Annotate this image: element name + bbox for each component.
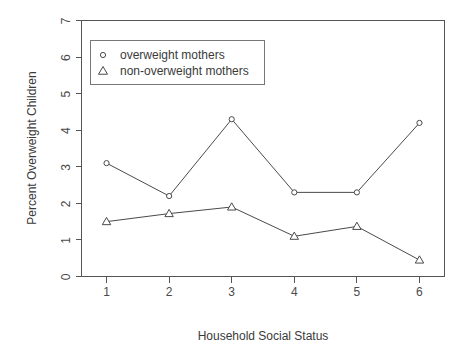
y-tick-label-6: 6 xyxy=(59,54,73,61)
x-axis: 123456 xyxy=(82,277,445,300)
data-point-1-3 xyxy=(229,117,234,122)
y-axis-title: Percent Overweight Children xyxy=(25,71,39,224)
series-line-1 xyxy=(107,119,420,196)
x-tick-label-5: 5 xyxy=(354,285,361,299)
y-axis-ticks xyxy=(76,21,82,277)
legend-label-2: non-overweight mothers xyxy=(120,64,249,78)
y-tick-label-5: 5 xyxy=(59,90,73,97)
data-point-1-1 xyxy=(104,161,109,166)
data-point-2-3 xyxy=(228,203,236,210)
x-axis-tick-labels: 123456 xyxy=(103,285,423,299)
x-tick-label-1: 1 xyxy=(103,285,110,299)
x-tick-label-6: 6 xyxy=(416,285,423,299)
y-tick-label-3: 3 xyxy=(59,164,73,171)
data-point-2-6 xyxy=(415,256,423,263)
circle-marker-icon xyxy=(100,52,105,57)
y-axis: 01234567 xyxy=(59,17,81,280)
y-tick-label-7: 7 xyxy=(59,17,73,24)
y-tick-label-2: 2 xyxy=(59,200,73,207)
x-tick-label-3: 3 xyxy=(228,285,235,299)
chart-container: 01234567 123456 Percent Overweight Child… xyxy=(0,0,469,361)
x-axis-title: Household Social Status xyxy=(198,329,329,343)
x-tick-label-2: 2 xyxy=(166,285,173,299)
data-point-1-4 xyxy=(292,190,297,195)
data-point-2-5 xyxy=(353,222,361,229)
data-point-1-5 xyxy=(354,190,359,195)
series-2 xyxy=(102,203,423,263)
series-1 xyxy=(104,117,422,199)
chart-legend: overweight mothersnon-overweight mothers xyxy=(91,41,265,85)
y-axis-tick-labels: 01234567 xyxy=(59,17,73,280)
x-axis-ticks xyxy=(107,277,420,283)
y-tick-label-4: 4 xyxy=(59,127,73,134)
data-series-layer xyxy=(102,117,423,263)
data-point-1-2 xyxy=(167,193,172,198)
y-tick-label-1: 1 xyxy=(59,237,73,244)
data-point-1-6 xyxy=(417,120,422,125)
x-tick-label-4: 4 xyxy=(291,285,298,299)
series-line-2 xyxy=(107,207,420,260)
line-chart: 01234567 123456 Percent Overweight Child… xyxy=(0,0,469,361)
legend-label-1: overweight mothers xyxy=(120,48,225,62)
y-tick-label-0: 0 xyxy=(59,273,73,280)
